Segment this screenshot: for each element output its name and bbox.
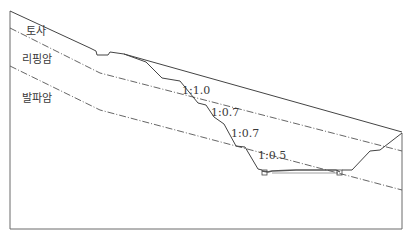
layer-label-soil: 토사 (26, 26, 46, 38)
slope-label-4: 1:0.5 (258, 150, 286, 162)
right-slope-profile (342, 133, 402, 170)
frame-border (10, 11, 402, 229)
cut-slope-profile (124, 54, 262, 170)
layer-label-blasting-rock: 발파암 (22, 93, 52, 105)
road-bed (262, 170, 340, 172)
ground-surface-line (10, 11, 402, 132)
slope-label-1: 1:1.0 (182, 85, 210, 97)
slope-label-3: 1:0.7 (231, 128, 259, 140)
slope-label-2: 1:0.7 (211, 107, 239, 119)
layer-label-rippable-rock: 리핑암 (22, 54, 52, 66)
cross-section-diagram (0, 0, 412, 242)
